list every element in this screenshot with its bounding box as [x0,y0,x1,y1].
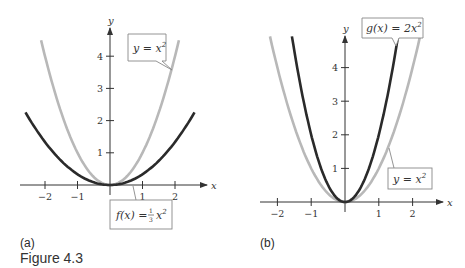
callout-y-equals-x-squared-a: y = x2 [128,34,172,70]
y-axis-label-b: y [342,23,349,34]
chart-b: x y −2−112 1234 g(x) = 2x2 y = x2 [260,18,453,219]
svg-text:y = x2: y = x2 [392,172,427,186]
x-tick-label: −1 [304,208,318,219]
y-tick-label: 2 [332,129,338,140]
x-axis-label-b: x [447,197,453,208]
callout-y-equals-x-squared-b: y = x2 [388,148,432,189]
x-axis-label-a: x [211,180,217,191]
panel-label-a: (a) [20,236,35,250]
figure-canvas: x y −2−112 1234 y = x2 f(x) = 1 3 x2 x y… [0,0,465,268]
x-tick-label: 2 [172,191,178,202]
x-tick-label: 2 [410,208,416,219]
y-tick-labels-b: 1234 [332,62,338,174]
y-tick-label: 2 [97,115,103,126]
y-axis-label-a: y [107,15,114,26]
y-tick-label: 1 [332,163,338,174]
x-tick-label: −2 [270,208,284,219]
svg-text:f(x) =: f(x) = [115,209,148,222]
x-tick-labels-b: −2−112 [270,208,415,219]
svg-text:g(x) = 2x2: g(x) = 2x2 [366,21,422,35]
panel-label-b: (b) [260,236,275,250]
y-tick-label: 1 [97,147,103,158]
y-tick-label: 4 [332,62,338,73]
figure-caption: Figure 4.3 [20,250,83,266]
y-tick-labels-a: 1234 [97,51,103,159]
x-tick-label: −2 [38,191,52,202]
svg-text:3: 3 [149,216,153,223]
x-tick-label: 1 [376,208,382,219]
svg-text:1: 1 [149,207,153,214]
y-tick-label: 3 [332,96,338,107]
x-tick-label: −1 [70,191,84,202]
y-tick-label: 4 [97,51,103,62]
callout-g-of-x-b: g(x) = 2x2 [362,18,423,46]
chart-a: x y −2−112 1234 y = x2 f(x) = 1 3 x2 [20,15,217,229]
svg-text:y = x2: y = x2 [132,41,167,55]
y-tick-label: 3 [97,83,103,94]
